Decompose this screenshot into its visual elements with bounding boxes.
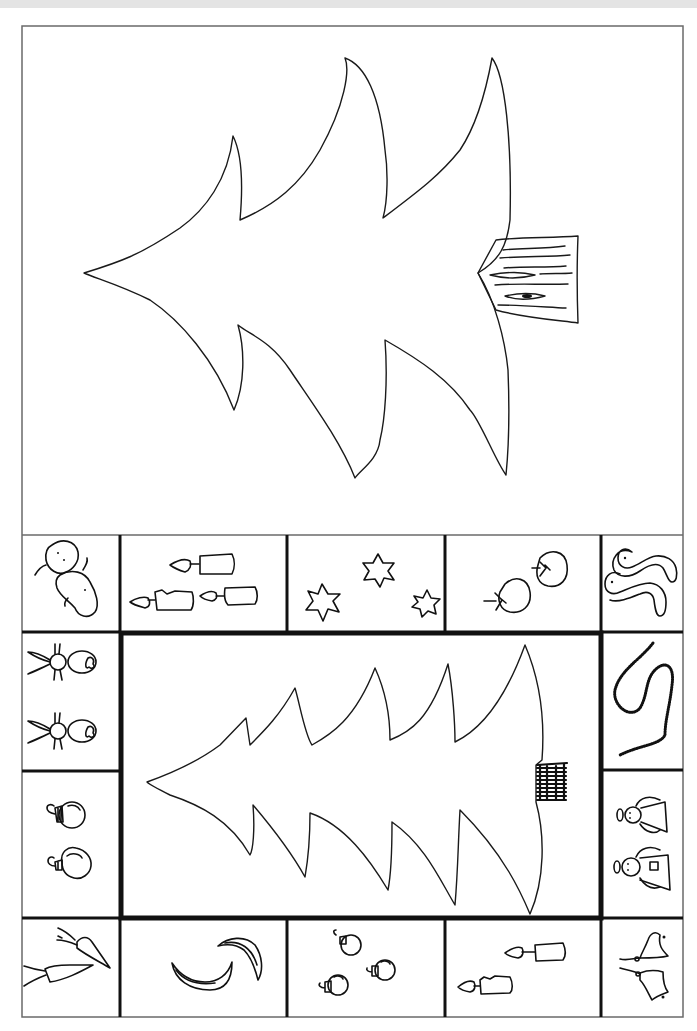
sticker-baubles-left[interactable] — [47, 802, 91, 878]
worm-icon — [613, 549, 677, 582]
sticker-bunnies[interactable] — [28, 644, 96, 749]
sticker-carrots[interactable] — [24, 928, 110, 986]
candle-icon — [170, 554, 234, 574]
apple-icon — [484, 579, 530, 612]
worm-icon — [605, 573, 666, 616]
sticker-angels[interactable] — [614, 797, 670, 890]
small-tree[interactable] — [147, 645, 567, 914]
worksheet-sheet — [0, 0, 697, 1031]
sticker-apples[interactable] — [484, 552, 567, 612]
bauble-icon — [334, 930, 361, 955]
angel-icon — [614, 848, 670, 890]
bauble-icon — [47, 802, 85, 828]
large-tree-trunk — [478, 236, 578, 323]
bauble-icon — [367, 960, 395, 980]
small-tree-board-frame — [121, 633, 601, 918]
sticker-baubles-bottom[interactable] — [319, 930, 395, 995]
large-tree[interactable] — [84, 58, 578, 478]
candle-icon — [505, 943, 565, 961]
sticker-candles-bottom[interactable] — [458, 943, 565, 994]
apple-icon — [532, 552, 567, 586]
star-icon — [363, 554, 394, 587]
sticker-candles[interactable] — [130, 554, 257, 610]
sticker-bells[interactable] — [620, 933, 668, 1000]
star-icon — [306, 584, 340, 621]
bauble-icon — [319, 975, 348, 995]
sticker-stars[interactable] — [306, 554, 440, 621]
carrot-icon — [24, 965, 93, 986]
bell-icon — [620, 968, 668, 1000]
candle-icon — [130, 590, 193, 610]
bunny-icon — [28, 644, 96, 680]
candle-icon — [200, 587, 257, 605]
bauble-icon — [48, 848, 91, 879]
carrot-icon — [57, 928, 110, 968]
sticker-tinsel[interactable] — [615, 643, 673, 755]
angel-icon — [617, 797, 667, 832]
potato-icon — [46, 541, 79, 573]
sticker-worms[interactable] — [605, 549, 677, 616]
sticker-bananas[interactable] — [172, 938, 262, 990]
small-tree-trunk — [537, 763, 567, 800]
large-tree-outline — [84, 58, 510, 478]
bell-icon — [620, 933, 668, 961]
star-icon — [412, 590, 440, 617]
sticker-potatoes[interactable] — [35, 541, 97, 616]
potato-icon — [56, 571, 97, 616]
bunny-icon — [28, 713, 96, 749]
candle-icon — [458, 976, 512, 994]
small-tree-outline — [147, 645, 543, 914]
